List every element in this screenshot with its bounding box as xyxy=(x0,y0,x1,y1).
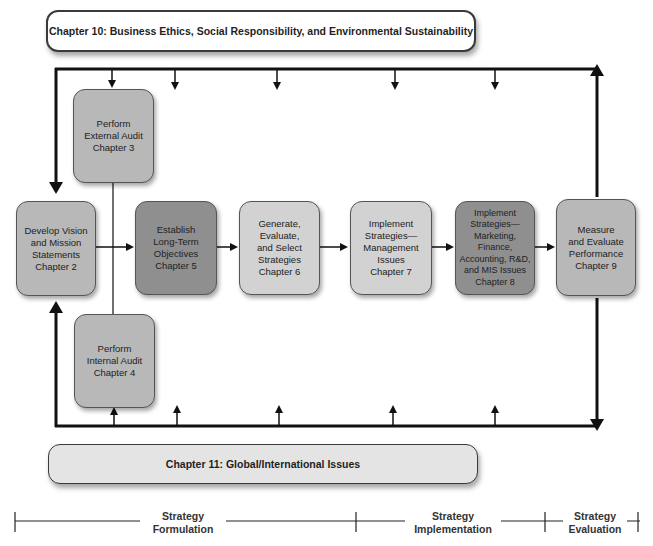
external-audit-box: Perform External Audit Chapter 3 xyxy=(73,89,154,183)
phase-implementation: Strategy Implementation xyxy=(405,510,501,536)
long-term-objectives-box: Establish Long-Term Objectives Chapter 5 xyxy=(135,201,217,295)
develop-vision-box: Develop Vision and Mission Statements Ch… xyxy=(16,201,96,296)
implement-management-box: Implement Strategies— Management Issues … xyxy=(350,201,432,295)
phase-evaluation: Strategy Evaluation xyxy=(563,510,627,536)
measure-evaluate-box: Measure and Evaluate Performance Chapter… xyxy=(556,199,636,296)
implement-marketing-box: Implement Strategies— Marketing, Finance… xyxy=(455,201,535,295)
internal-audit-box: Perform Internal Audit Chapter 4 xyxy=(74,314,155,408)
phase-formulation: Strategy Formulation xyxy=(140,510,226,536)
generate-strategies-box: Generate, Evaluate, and Select Strategie… xyxy=(239,201,320,295)
chapter-11-banner: Chapter 11: Global/International Issues xyxy=(48,444,478,484)
chapter-11-label: Chapter 11: Global/International Issues xyxy=(166,458,360,470)
